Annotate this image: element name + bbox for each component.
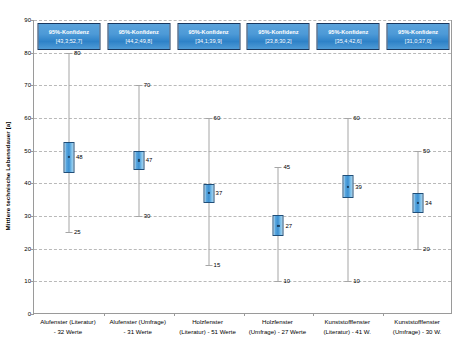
x-axis-tick-mark xyxy=(313,313,314,316)
whisker-cap-lower xyxy=(415,249,422,250)
confidence-callout[interactable]: 95%-Konfidenz[43,3;52,7] xyxy=(37,23,100,50)
whisker-cap-upper xyxy=(415,151,422,152)
x-axis-category-label-line: Alufenster (Umfrage) xyxy=(99,317,177,327)
data-series-group[interactable]: 601537 xyxy=(179,20,239,313)
y-axis-tick-label: 90 xyxy=(24,17,31,23)
min-value-label: 25 xyxy=(74,229,81,235)
confidence-callout-title: 95%-Konfidenz xyxy=(108,29,169,35)
min-value-label: 20 xyxy=(423,246,430,252)
whisker-cap-upper xyxy=(135,85,142,86)
x-axis-tick-mark xyxy=(104,313,105,316)
min-value-label: 30 xyxy=(144,213,151,219)
x-axis-tick-mark xyxy=(244,313,245,316)
confidence-callout-interval: [43,3;52,7] xyxy=(38,38,99,44)
y-axis-tick-label: 40 xyxy=(24,180,31,186)
x-axis-labels: Alufenster (Literatur)- 32 WerteAlufenst… xyxy=(33,317,452,351)
whisker-line xyxy=(348,118,349,281)
confidence-callout[interactable]: 95%-Konfidenz[44,2;49,8] xyxy=(107,23,170,50)
mean-marker xyxy=(68,156,70,158)
confidence-callout-title: 95%-Konfidenz xyxy=(38,29,99,35)
x-axis-category-label-line: (Literatur) - 41 W. xyxy=(308,327,386,337)
x-axis-category-label: Alufenster (Literatur)- 32 Werte xyxy=(29,317,107,337)
whisker-cap-lower xyxy=(205,265,212,266)
whisker-cap-upper xyxy=(65,53,72,54)
max-value-label: 60 xyxy=(353,115,360,121)
data-series-group[interactable]: 502034 xyxy=(388,20,448,313)
y-axis-title-text: Mittlere technische Lebensdauer [a] xyxy=(4,121,11,230)
confidence-callout-interval: [35,4;42,6] xyxy=(318,38,379,44)
x-axis-category-label: Holzfenster(Literatur) - 51 Werte xyxy=(169,317,247,337)
x-axis-category-label-line: Holzfenster xyxy=(169,317,247,327)
min-value-label: 15 xyxy=(214,262,221,268)
min-value-label: 10 xyxy=(283,278,290,284)
confidence-callout[interactable]: 95%-Konfidenz[34,1;39,9] xyxy=(177,23,240,50)
y-axis-tick-label: 60 xyxy=(24,115,31,121)
confidence-callout[interactable]: 95%-Konfidenz[35,4;42,6] xyxy=(317,23,380,50)
confidence-callout-title: 95%-Konfidenz xyxy=(318,29,379,35)
mean-marker xyxy=(347,186,349,188)
x-axis-tick-mark xyxy=(383,313,384,316)
mean-value-label: 37 xyxy=(216,190,223,196)
whisker-cap-lower xyxy=(345,281,352,282)
x-axis-category-label: Kunststofffenster(Umfrage) - 30 W. xyxy=(378,317,456,337)
min-value-label: 10 xyxy=(353,278,360,284)
confidence-callout-interval: [31,0;37,0] xyxy=(388,38,449,44)
confidence-callout[interactable]: 95%-Konfidenz[23,8;30,2] xyxy=(247,23,310,50)
mean-value-label: 39 xyxy=(355,184,362,190)
data-series-group[interactable]: 703047 xyxy=(109,20,169,313)
x-axis-category-label-line: Kunststofffenster xyxy=(308,317,386,327)
x-axis-category-label-line: (Umfrage) - 30 W. xyxy=(378,327,456,337)
plot-area: 0102030405060708090 80254870304760153745… xyxy=(33,20,452,314)
mean-value-label: 34 xyxy=(425,200,432,206)
y-axis-tick-label: 20 xyxy=(24,246,31,252)
confidence-callout-title: 95%-Konfidenz xyxy=(388,29,449,35)
mean-value-label: 48 xyxy=(76,154,83,160)
whisker-cap-lower xyxy=(275,281,282,282)
x-axis-category-label-line: (Umfrage) - 27 Werte xyxy=(238,327,316,337)
x-axis-category-label-line: - 31 Werte xyxy=(99,327,177,337)
confidence-callout-interval: [34,1;39,9] xyxy=(178,38,239,44)
x-axis-category-label-line: Holzfenster xyxy=(238,317,316,327)
mean-marker xyxy=(138,159,140,161)
y-axis-tick-label: 10 xyxy=(24,278,31,284)
whisker-cap-lower xyxy=(135,216,142,217)
y-axis-tick-label: 70 xyxy=(24,82,31,88)
mean-value-label: 47 xyxy=(146,157,153,163)
max-value-label: 60 xyxy=(214,115,221,121)
y-axis-tick-mark xyxy=(31,314,34,315)
max-value-label: 50 xyxy=(423,148,430,154)
max-value-label: 80 xyxy=(74,50,81,56)
mean-marker xyxy=(417,202,419,204)
data-series-group[interactable]: 451027 xyxy=(248,20,308,313)
x-axis-category-label-line: (Literatur) - 51 Werte xyxy=(169,327,247,337)
whisker-cap-lower xyxy=(65,232,72,233)
y-axis-tick-label: 30 xyxy=(24,213,31,219)
confidence-callout-interval: [23,8;30,2] xyxy=(248,38,309,44)
chart-container: Mittlere technische Lebensdauer [a] 0102… xyxy=(0,0,460,351)
x-axis-category-label-line: - 32 Werte xyxy=(29,327,107,337)
x-axis-category-label-line: Alufenster (Literatur) xyxy=(29,317,107,327)
data-series-group[interactable]: 802548 xyxy=(39,20,99,313)
x-axis-category-label-line: Kunststofffenster xyxy=(378,317,456,327)
confidence-callout-title: 95%-Konfidenz xyxy=(248,29,309,35)
x-axis-category-label: Alufenster (Umfrage)- 31 Werte xyxy=(99,317,177,337)
confidence-callout[interactable]: 95%-Konfidenz[31,0;37,0] xyxy=(387,23,450,50)
x-axis-category-label: Holzfenster(Umfrage) - 27 Werte xyxy=(238,317,316,337)
whisker-cap-upper xyxy=(345,118,352,119)
y-axis-tick-label: 50 xyxy=(24,148,31,154)
mean-value-label: 27 xyxy=(285,223,292,229)
whisker-cap-upper xyxy=(275,167,282,168)
mean-marker xyxy=(277,225,279,227)
confidence-callout-interval: [44,2;49,8] xyxy=(108,38,169,44)
data-series-group[interactable]: 601039 xyxy=(318,20,378,313)
y-axis-tick-label: 80 xyxy=(24,50,31,56)
mean-marker xyxy=(207,192,209,194)
x-axis-category-label: Kunststofffenster(Literatur) - 41 W. xyxy=(308,317,386,337)
max-value-label: 45 xyxy=(283,164,290,170)
confidence-callout-title: 95%-Konfidenz xyxy=(178,29,239,35)
x-axis-tick-mark xyxy=(174,313,175,316)
y-axis-title: Mittlere technische Lebensdauer [a] xyxy=(0,0,14,351)
max-value-label: 70 xyxy=(144,82,151,88)
whisker-cap-upper xyxy=(205,118,212,119)
